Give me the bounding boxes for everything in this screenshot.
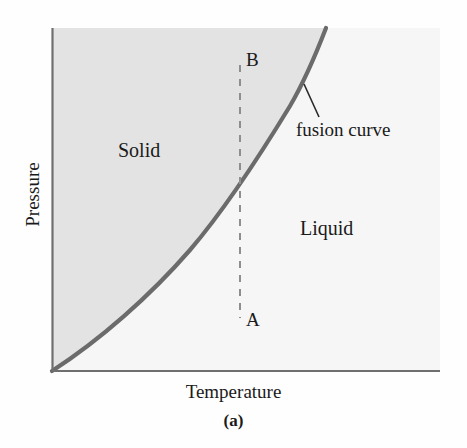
point-label-b: B <box>246 50 259 69</box>
annotation-fusion-curve: fusion curve <box>296 120 390 139</box>
region-label-solid: Solid <box>118 140 160 160</box>
figure-caption: (a) <box>0 412 467 429</box>
phase-diagram-figure: Solid Liquid B A fusion curve Pressure T… <box>0 0 467 448</box>
region-label-liquid: Liquid <box>300 218 353 238</box>
axis-label-pressure: Pressure <box>23 145 42 245</box>
axis-label-temperature: Temperature <box>0 382 467 401</box>
point-label-a: A <box>246 310 260 329</box>
